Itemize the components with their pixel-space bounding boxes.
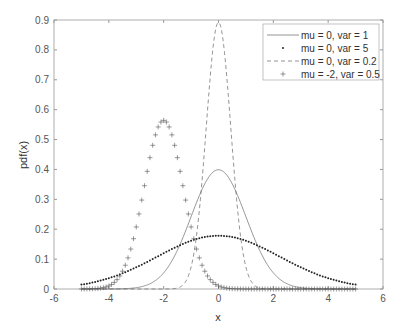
- x-tick-label: -4: [104, 293, 113, 304]
- x-tick-label: -6: [50, 293, 59, 304]
- y-tick-label: 0.9: [35, 15, 49, 26]
- legend: mu = 0, var = 1mu = 0, var = 5mu = 0, va…: [263, 24, 380, 80]
- y-tick-label: 0: [43, 284, 49, 295]
- x-axis-label: x: [215, 311, 221, 323]
- y-tick-label: 0.5: [35, 134, 49, 145]
- legend-entry: mu = -2, var = 0.5: [301, 69, 380, 80]
- x-tick-label: -2: [159, 293, 168, 304]
- y-tick-label: 0.3: [35, 194, 49, 205]
- x-tick-label: 0: [216, 293, 222, 304]
- x-tick-label: 4: [325, 293, 331, 304]
- y-tick-label: 0.1: [35, 254, 49, 265]
- legend-entry: mu = 0, var = 5: [301, 43, 369, 54]
- legend-entry: mu = 0, var = 1: [301, 30, 369, 41]
- x-tick-label: 2: [271, 293, 277, 304]
- y-tick-label: 0.2: [35, 224, 49, 235]
- y-axis-label: pdf(x): [17, 141, 29, 169]
- y-tick-label: 0.7: [35, 74, 49, 85]
- pdf-chart: -6-4-2024600.10.20.30.40.50.60.70.80.9 x…: [0, 0, 405, 335]
- y-tick-label: 0.4: [35, 164, 49, 175]
- x-tick-label: 6: [380, 293, 386, 304]
- y-tick-label: 0.8: [35, 44, 49, 55]
- y-tick-label: 0.6: [35, 104, 49, 115]
- legend-entry: mu = 0, var = 0.2: [301, 56, 377, 67]
